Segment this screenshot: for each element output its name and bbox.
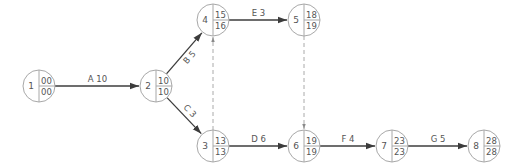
node-latest-time: 28: [486, 147, 497, 157]
activity-edge-a10: A 10: [55, 74, 139, 87]
edge-label: D 6: [251, 134, 266, 144]
edges-layer: A 10B 5C 3D 6E 3F 4G 5: [55, 8, 467, 147]
arrow: [167, 98, 201, 134]
node-6: 61919: [288, 130, 320, 162]
node-number: 6: [293, 141, 299, 151]
node-earliest-time: 28: [486, 136, 497, 146]
activity-edge-c3: C 3: [167, 98, 201, 134]
activity-edge-d6: D 6: [229, 134, 287, 147]
activity-edge-f4: F 4: [320, 134, 375, 147]
activity-edge-b5: B 5: [166, 33, 201, 74]
node-number: 7: [381, 141, 387, 151]
edge-label: E 3: [252, 8, 265, 18]
edge-label: C 3: [181, 102, 198, 119]
node-earliest-time: 23: [394, 136, 405, 146]
node-7: 72323: [376, 130, 408, 162]
node-earliest-time: 18: [306, 10, 317, 20]
node-latest-time: 00: [41, 87, 52, 97]
node-5: 51819: [288, 4, 320, 36]
activity-edge-g5: G 5: [408, 134, 467, 147]
network-diagram: A 10B 5C 3D 6E 3F 4G 5 10000210103131341…: [0, 0, 513, 168]
node-latest-time: 19: [306, 147, 317, 157]
node-earliest-time: 10: [158, 76, 169, 86]
node-number: 3: [202, 141, 208, 151]
edge-label: F 4: [342, 134, 355, 144]
node-earliest-time: 19: [306, 136, 317, 146]
node-number: 1: [28, 81, 34, 91]
node-2: 21010: [140, 70, 172, 102]
node-earliest-time: 13: [215, 136, 226, 146]
node-8: 82828: [468, 130, 500, 162]
node-number: 4: [202, 15, 208, 25]
node-number: 8: [473, 141, 479, 151]
arrow: [166, 33, 201, 74]
node-earliest-time: 15: [215, 10, 226, 20]
node-latest-time: 23: [394, 147, 405, 157]
edge-label: B 5: [181, 49, 198, 66]
node-latest-time: 13: [215, 147, 226, 157]
node-1: 10000: [23, 70, 55, 102]
node-latest-time: 16: [215, 21, 226, 31]
edge-label: G 5: [431, 134, 446, 144]
node-latest-time: 19: [306, 21, 317, 31]
edge-label: A 10: [88, 74, 107, 84]
activity-edge-e3: E 3: [229, 8, 287, 21]
node-4: 41516: [197, 4, 229, 36]
node-number: 2: [145, 81, 151, 91]
node-latest-time: 10: [158, 87, 169, 97]
node-number: 5: [293, 15, 299, 25]
node-3: 31313: [197, 130, 229, 162]
node-earliest-time: 00: [41, 76, 52, 86]
